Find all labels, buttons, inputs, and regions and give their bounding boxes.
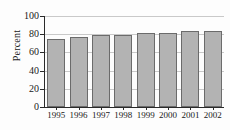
y-axis-tick-label: 80 [29, 29, 39, 39]
y-axis-tick-label: 0 [34, 102, 39, 112]
y-axis-tick-label: 60 [29, 47, 39, 57]
y-axis-tick [40, 34, 44, 35]
bar-2001 [181, 31, 199, 107]
x-axis-labels: 19951996199719981999200020012002 [44, 108, 224, 124]
x-axis-tick-label: 2002 [204, 111, 222, 120]
bar-chart-figure: Percent 020406080100 1995199619971998199… [0, 0, 230, 130]
x-axis-tick-label: 1996 [70, 111, 88, 120]
x-axis-tick-label: 1995 [47, 111, 65, 120]
bar-2002 [204, 31, 222, 107]
y-axis-tick [40, 71, 44, 72]
y-axis-tick-label: 40 [29, 66, 39, 76]
plot-area: 020406080100 [44, 16, 224, 107]
x-axis-tick-label: 2001 [181, 111, 199, 120]
y-axis-tick [40, 89, 44, 90]
bar-2000 [159, 33, 177, 107]
bar-1998 [114, 35, 132, 107]
bar-1995 [47, 39, 65, 107]
y-axis-tick-label: 100 [24, 11, 39, 21]
x-axis-tick-label: 1997 [92, 111, 110, 120]
bar-1997 [92, 35, 110, 107]
y-axis-title: Percent [11, 6, 22, 86]
y-axis-tick [40, 52, 44, 53]
y-axis-tick [40, 16, 44, 17]
x-axis-tick-label: 2000 [159, 111, 177, 120]
x-axis-tick-label: 1998 [114, 111, 132, 120]
bar-1999 [137, 33, 155, 107]
y-axis-tick-label: 20 [29, 84, 39, 94]
bar-1996 [70, 37, 88, 107]
x-axis-tick-label: 1999 [137, 111, 155, 120]
bar-series [45, 16, 224, 107]
